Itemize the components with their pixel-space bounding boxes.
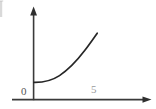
arrow-right-icon [143,96,152,102]
graph-figure: 0 5 [0,0,156,109]
y-axis [30,7,37,101]
axis-label-x-tick: 5 [91,84,97,95]
axis-label-origin: 0 [21,86,27,97]
cropped-glyph-fragment-icon [0,0,3,17]
curve-series [34,33,97,82]
arrow-up-icon [30,7,37,16]
